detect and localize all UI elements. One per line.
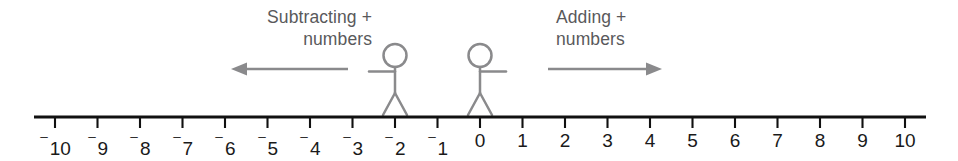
tick-label--9: ⁻9 <box>87 131 108 158</box>
stick-figure-subtracting <box>369 44 407 115</box>
tick-label--10: ⁻10 <box>39 131 71 158</box>
arrow-left-head <box>231 63 247 76</box>
tick-digits: 1 <box>437 138 448 159</box>
tick-digits: 6 <box>730 130 741 151</box>
tick-digits: 8 <box>815 130 826 151</box>
tick-label-3: 3 <box>602 131 613 150</box>
negative-sign: ⁻ <box>129 131 139 150</box>
tick-digits: 3 <box>602 130 613 151</box>
arrow-subtracting <box>231 63 348 76</box>
tick-digits: 9 <box>97 138 108 159</box>
tick-digits: 4 <box>310 138 321 159</box>
negative-sign: ⁻ <box>172 131 182 150</box>
tick-marks <box>55 117 905 128</box>
tick-digits: 2 <box>395 138 406 159</box>
tick-digits: 10 <box>894 130 915 151</box>
tick-label--8: ⁻8 <box>129 131 150 158</box>
tick-digits: 4 <box>645 130 656 151</box>
tick-label--1: ⁻1 <box>427 131 448 158</box>
figure-leg-right <box>395 93 407 115</box>
tick-digits: 1 <box>517 130 528 151</box>
tick-label--5: ⁻5 <box>257 131 278 158</box>
negative-sign: ⁻ <box>427 131 437 150</box>
tick-label-8: 8 <box>815 131 826 150</box>
negative-sign: ⁻ <box>342 131 352 150</box>
figure-leg-right <box>480 93 492 115</box>
tick-digits: 10 <box>50 138 71 159</box>
negative-sign: ⁻ <box>87 131 97 150</box>
negative-sign: ⁻ <box>39 131 49 150</box>
tick-digits: 6 <box>225 138 236 159</box>
tick-label-4: 4 <box>645 131 656 150</box>
tick-digits: 9 <box>857 130 868 151</box>
tick-digits: 5 <box>267 138 278 159</box>
figure-head <box>384 44 407 67</box>
arrow-right-head <box>646 63 662 76</box>
tick-digits: 0 <box>475 130 486 151</box>
figure-leg-left <box>468 93 480 115</box>
tick-label-1: 1 <box>517 131 528 150</box>
tick-digits: 7 <box>772 130 783 151</box>
arrow-adding <box>548 63 662 76</box>
tick-label--3: ⁻3 <box>342 131 363 158</box>
tick-label--2: ⁻2 <box>384 131 405 158</box>
tick-label--7: ⁻7 <box>172 131 193 158</box>
tick-label-6: 6 <box>730 131 741 150</box>
stick-figure-adding <box>468 44 506 115</box>
tick-digits: 2 <box>560 130 571 151</box>
tick-label-0: 0 <box>475 131 486 150</box>
tick-digits: 7 <box>182 138 193 159</box>
negative-sign: ⁻ <box>299 131 309 150</box>
negative-sign: ⁻ <box>257 131 267 150</box>
number-line-diagram: Subtracting + numbers Adding + numbers ⁻… <box>0 0 958 161</box>
tick-label--6: ⁻6 <box>214 131 235 158</box>
negative-sign: ⁻ <box>214 131 224 150</box>
tick-label-7: 7 <box>772 131 783 150</box>
tick-label-2: 2 <box>560 131 571 150</box>
tick-label-5: 5 <box>687 131 698 150</box>
caption-adding: Adding + numbers <box>556 6 742 50</box>
negative-sign: ⁻ <box>384 131 394 150</box>
tick-digits: 3 <box>352 138 363 159</box>
tick-label-10: 10 <box>894 131 915 150</box>
figure-head <box>469 44 492 67</box>
tick-label--4: ⁻4 <box>299 131 320 158</box>
caption-subtracting: Subtracting + numbers <box>186 6 372 50</box>
tick-digits: 8 <box>140 138 151 159</box>
tick-digits: 5 <box>687 130 698 151</box>
tick-label-9: 9 <box>857 131 868 150</box>
figure-leg-left <box>383 93 395 115</box>
